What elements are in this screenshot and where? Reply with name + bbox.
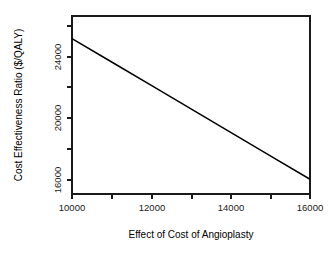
y-tick-label-16000: 16000 bbox=[52, 167, 63, 193]
y-tick-label-24000: 24000 bbox=[52, 44, 63, 70]
x-axis-ticks bbox=[72, 194, 310, 199]
x-tick-label-14000: 14000 bbox=[218, 202, 244, 213]
x-tick-label-10000: 10000 bbox=[59, 202, 85, 213]
x-axis-title: Effect of Cost of Angioplasty bbox=[129, 229, 254, 240]
plot-frame bbox=[72, 16, 310, 194]
data-series-line bbox=[72, 39, 310, 180]
y-tick-label-20000: 20000 bbox=[52, 105, 63, 131]
y-axis-title: Cost Effectiveness Ratio ($/QALY) bbox=[13, 29, 24, 181]
line-chart: 24000 20000 16000 10000 12000 14000 1600… bbox=[0, 0, 332, 259]
x-tick-label-12000: 12000 bbox=[139, 202, 165, 213]
y-axis-ticks bbox=[67, 26, 72, 180]
x-tick-label-16000: 16000 bbox=[297, 202, 323, 213]
chart-figure: 24000 20000 16000 10000 12000 14000 1600… bbox=[0, 0, 332, 259]
